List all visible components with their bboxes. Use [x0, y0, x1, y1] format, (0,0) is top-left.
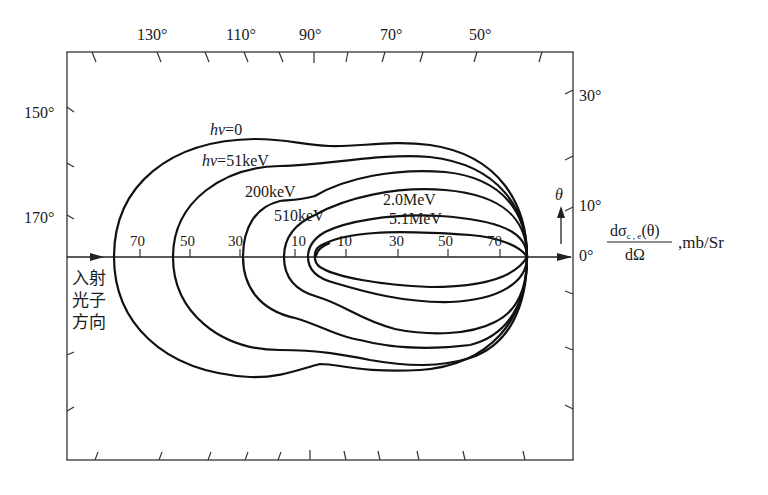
radial-label-right-10: 10	[337, 233, 352, 249]
incident-arrow-icon	[90, 253, 104, 261]
radial-label-left-10: 10	[291, 233, 306, 249]
angle-label-170: 170°	[24, 209, 54, 226]
top-angle-ticks	[92, 52, 542, 63]
angle-label-50: 50°	[469, 26, 491, 43]
theta-arrow-icon	[557, 206, 565, 218]
horizontal-axis	[67, 253, 572, 261]
angle-label-70: 70°	[380, 26, 402, 43]
ylabel-numerator: dσc , e(θ)	[610, 222, 660, 241]
theta-symbol: θ	[555, 186, 563, 203]
radial-tick-labels: 70 50 30 10 10 30 50 70	[130, 233, 502, 249]
theta-indicator: θ	[555, 186, 565, 244]
radial-ticks	[140, 249, 500, 257]
label-hv-51kev: hν=51keV	[202, 152, 269, 169]
incident-label-line-1: 入射	[72, 268, 106, 288]
angle-label-90: 90°	[299, 26, 321, 43]
radial-label-left-70: 70	[130, 233, 145, 249]
label-200kev: 200keV	[245, 183, 296, 200]
right-angle-ticks	[565, 90, 573, 409]
label-510kev: 510keV	[274, 207, 325, 224]
plot-frame	[67, 52, 573, 460]
cross-section-unit-label: dσc , e(θ) dΩ ,mb/Sr	[607, 222, 724, 263]
radial-label-left-30: 30	[228, 233, 243, 249]
angle-label-150: 150°	[24, 104, 54, 121]
curve-hv-51kev	[173, 156, 527, 365]
curve-2mev	[308, 215, 527, 302]
ylabel-denominator: dΩ	[625, 246, 645, 263]
incident-label-line-2: 光子	[72, 290, 106, 310]
radial-label-left-50: 50	[180, 233, 195, 249]
forward-arrow-icon	[557, 253, 572, 261]
right-angle-labels: 30° 10° 0°	[579, 87, 601, 264]
angle-label-0: 0°	[579, 247, 593, 264]
left-angle-labels: 150° 170°	[24, 104, 54, 226]
angle-label-110: 110°	[226, 26, 256, 43]
ylabel-unit: ,mb/Sr	[678, 233, 724, 252]
cross-section-curves	[114, 139, 527, 377]
top-angle-labels: 130° 110° 90° 70° 50°	[137, 26, 491, 43]
angle-label-130: 130°	[137, 26, 167, 43]
curve-5-1mev-hook	[316, 243, 330, 257]
label-hv-0: hν=0	[210, 121, 242, 138]
label-5-1mev: 5.1MeV	[389, 210, 442, 227]
radial-label-right-30: 30	[389, 233, 404, 249]
left-angle-ticks	[67, 107, 74, 411]
label-2mev: 2.0MeV	[383, 191, 436, 208]
angle-label-30: 30°	[579, 87, 601, 104]
angle-label-10: 10°	[579, 197, 601, 214]
incident-photon-direction-label: 入射 光子 方向	[72, 268, 106, 332]
compton-polar-diagram: 130° 110° 90° 70° 50° 150° 170° 30° 10° …	[0, 0, 768, 495]
bottom-angle-ticks	[95, 450, 525, 460]
incident-label-line-3: 方向	[72, 312, 106, 332]
radial-label-right-50: 50	[438, 233, 453, 249]
radial-label-right-70: 70	[487, 233, 502, 249]
